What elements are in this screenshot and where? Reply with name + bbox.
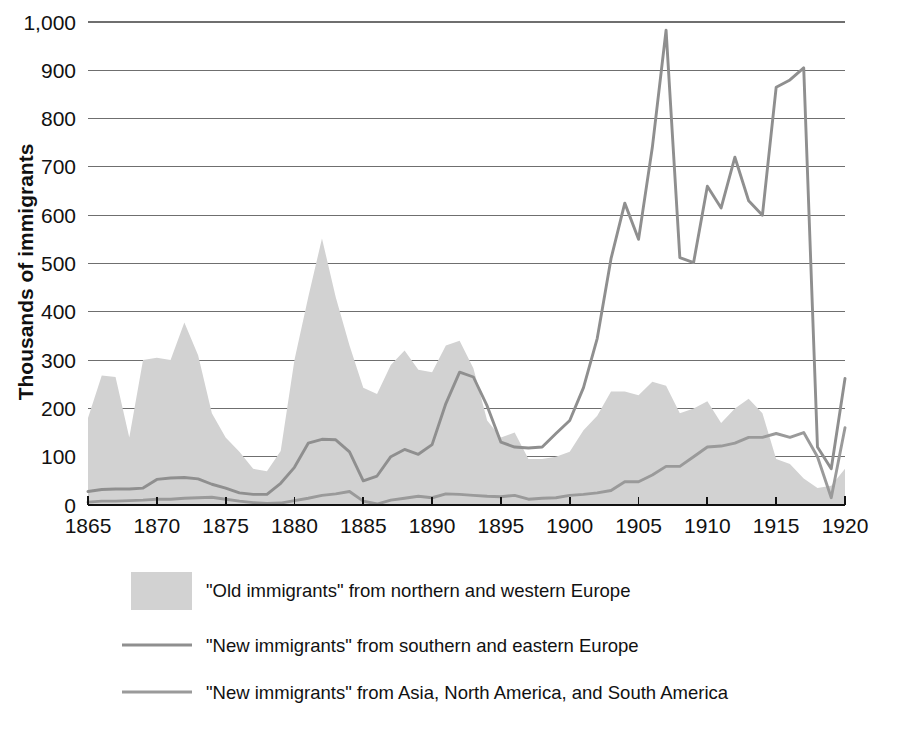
- y-tick-label: 800: [41, 107, 76, 130]
- x-tick-label: 1910: [684, 514, 731, 537]
- legend-label-2: "New immigrants" from Asia, North Americ…: [206, 682, 729, 703]
- legend-label-0: "Old immigrants" from northern and weste…: [206, 580, 630, 601]
- x-tick-label: 1875: [202, 514, 249, 537]
- x-tick-label: 1920: [822, 514, 869, 537]
- x-tick-label: 1895: [478, 514, 525, 537]
- chart-canvas: 01002003004005006007008009001,000 186518…: [0, 0, 905, 734]
- y-tick-label: 1,000: [23, 11, 76, 34]
- legend-swatch-0: [131, 572, 192, 610]
- x-tick-label: 1915: [753, 514, 800, 537]
- y-tick-label: 600: [41, 204, 76, 227]
- x-tick-label: 1890: [409, 514, 456, 537]
- x-tick-label: 1870: [133, 514, 180, 537]
- y-axis-title: Thousands of immigrants: [14, 144, 37, 401]
- y-tick-label: 500: [41, 252, 76, 275]
- x-tick-label: 1865: [65, 514, 112, 537]
- x-tick-label: 1900: [546, 514, 593, 537]
- y-tick-label: 700: [41, 155, 76, 178]
- chart-legend: "Old immigrants" from northern and weste…: [122, 572, 729, 703]
- area-series-0: [88, 238, 845, 505]
- y-tick-label: 200: [41, 397, 76, 420]
- x-tick-label: 1880: [271, 514, 318, 537]
- legend-label-1: "New immigrants" from southern and easte…: [206, 635, 639, 656]
- area-series-group: [88, 238, 845, 505]
- x-tick-label: 1885: [340, 514, 387, 537]
- immigration-chart-figure: 01002003004005006007008009001,000 186518…: [0, 0, 905, 734]
- y-tick-label: 400: [41, 300, 76, 323]
- y-tick-label: 900: [41, 59, 76, 82]
- y-tick-label: 100: [41, 445, 76, 468]
- x-axis-tick-labels: 1865187018751880188518901895190019051910…: [65, 514, 869, 537]
- x-tick-label: 1905: [615, 514, 662, 537]
- y-tick-label: 300: [41, 349, 76, 372]
